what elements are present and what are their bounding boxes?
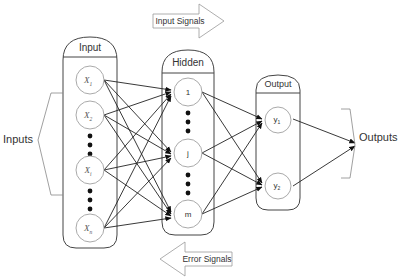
svg-text:m: m [185, 210, 192, 219]
hidden-ellipsis-dots-1 [186, 111, 191, 134]
neural-network-diagram: Input Signals Error Signals Input Hidden… [0, 0, 402, 279]
input-layer-title: Input [79, 42, 101, 53]
hidden-ellipsis-dots-2 [186, 173, 191, 196]
hidden-nodes: 1 j m [174, 78, 202, 228]
outputs-label: Outputs [359, 131, 398, 143]
hidden-layer-title: Hidden [172, 57, 204, 68]
input-node-xn [76, 214, 104, 242]
input-node-x2 [76, 101, 104, 129]
input-node-x1 [76, 66, 104, 94]
input-signals-label: Input Signals [155, 16, 204, 26]
input-ellipsis-dots-1 [88, 134, 93, 157]
error-signals-arrow: Error Signals [160, 242, 232, 276]
input-ellipsis-dots-2 [88, 189, 93, 212]
inputs-label: Inputs [3, 133, 33, 145]
outputs-brace: Outputs [341, 109, 398, 178]
input-signals-arrow: Input Signals [153, 4, 224, 38]
svg-text:j: j [186, 149, 189, 158]
input-node-xi [76, 156, 104, 184]
output-layer-title: Output [264, 79, 292, 89]
error-signals-label: Error Signals [182, 254, 231, 264]
inputs-brace: Inputs [3, 93, 63, 195]
svg-text:1: 1 [186, 88, 191, 97]
output-connections [293, 119, 355, 186]
